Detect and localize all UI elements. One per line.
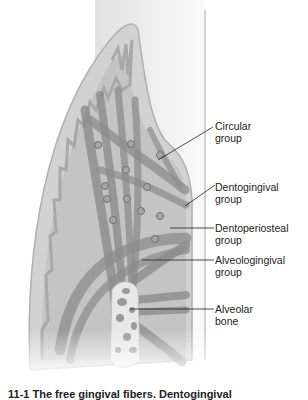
label-alveolar-bone: Alveolar bone [215,303,253,327]
label-alveologingival-group: Alveologingival group [215,254,285,278]
label-circular-group: Circular group [215,120,251,144]
figure-caption: 11-1 The free gingival fibers. Dentoging… [8,388,308,400]
label-dentoperiosteal-group: Dentoperiosteal group [215,222,289,246]
label-dentogingival-group: Dentogingival group [215,181,279,205]
